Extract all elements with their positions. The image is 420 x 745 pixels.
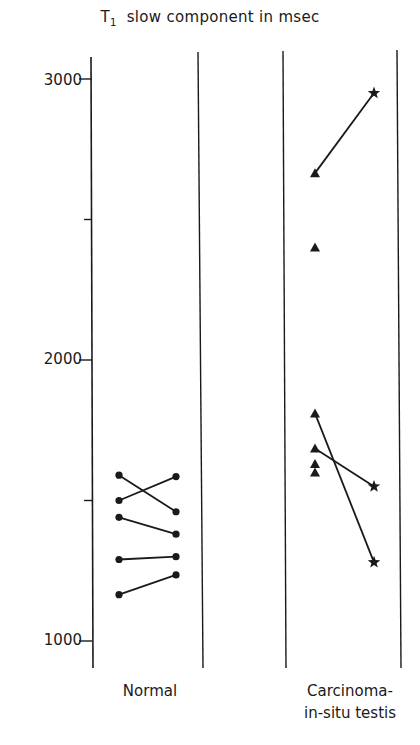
pair-connector-line xyxy=(315,449,374,487)
y-tick-3000: 3000 xyxy=(22,71,82,89)
triangle-marker xyxy=(310,467,320,476)
circle-marker xyxy=(115,497,122,504)
circle-marker xyxy=(172,553,179,560)
circle-marker xyxy=(172,508,179,515)
circle-marker xyxy=(172,571,179,578)
circle-marker xyxy=(115,591,122,598)
pair-connector-line xyxy=(119,557,176,560)
triangle-marker xyxy=(310,444,320,453)
pair-connector-line xyxy=(315,413,374,562)
circle-marker xyxy=(115,556,122,563)
y-tick-2000: 2000 xyxy=(22,350,82,368)
y-axis-line xyxy=(91,57,93,668)
triangle-marker xyxy=(310,459,320,468)
circle-marker xyxy=(172,473,179,480)
pair-connector-line xyxy=(119,517,176,534)
triangle-marker xyxy=(310,243,320,252)
category-label-cis-line1: Carcinoma- xyxy=(285,680,415,702)
category-label-cis: Carcinoma- in-situ testis xyxy=(285,680,415,724)
pair-connector-line xyxy=(119,575,176,595)
panel-divider-left xyxy=(198,52,203,668)
star-marker xyxy=(368,480,380,492)
category-label-normal: Normal xyxy=(95,680,205,702)
circle-marker xyxy=(172,531,179,538)
pair-connector-line xyxy=(315,93,374,173)
circle-marker xyxy=(115,472,122,479)
panel-divider-mid xyxy=(283,51,286,668)
star-marker xyxy=(368,87,380,99)
panel-divider-right xyxy=(397,50,401,668)
triangle-marker xyxy=(310,408,320,417)
circle-marker xyxy=(115,514,122,521)
category-label-cis-line2: in-situ testis xyxy=(285,702,415,724)
y-tick-1000: 1000 xyxy=(22,631,82,649)
star-marker xyxy=(368,556,380,568)
